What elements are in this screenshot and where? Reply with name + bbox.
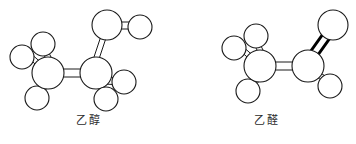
ethanol-structure-diagram — [0, 0, 178, 116]
atom-carbon-methyl — [32, 57, 64, 89]
atom-hydrogen-methyl-lower-left — [25, 86, 49, 110]
atom-hydrogen-methyl-top — [31, 32, 55, 56]
atom-carbon-methyl — [244, 50, 276, 82]
ethanol-atoms — [10, 10, 152, 111]
atom-carbon-methylene — [80, 57, 112, 89]
atom-hydrogen-methylene-right — [112, 70, 136, 94]
acetaldehyde-atoms — [222, 10, 348, 103]
atom-hydrogen-aldehyde — [318, 74, 342, 98]
atom-hydrogen-methyl-bottom — [236, 79, 260, 103]
atom-hydrogen-methyl-upper-left — [10, 45, 34, 69]
molecular-models-figure: 乙醇 — [0, 0, 356, 144]
atom-hydrogen-methylene-bottom — [94, 87, 118, 111]
caption-ethanol: 乙醇 — [0, 114, 178, 128]
atom-oxygen-carbonyl — [318, 10, 348, 40]
atom-hydrogen-methyl-upper-left — [222, 36, 246, 60]
acetaldehyde-structure-diagram — [178, 0, 356, 116]
atom-hydrogen-hydroxyl — [128, 15, 152, 39]
caption-acetaldehyde: 乙醛 — [178, 114, 356, 128]
molecule-panel-acetaldehyde: 乙醛 — [178, 0, 356, 144]
atom-carbon-carbonyl — [292, 50, 324, 82]
molecule-panel-ethanol: 乙醇 — [0, 0, 178, 144]
atom-oxygen-hydroxyl — [92, 10, 122, 40]
atom-hydrogen-methyl-top — [244, 24, 268, 48]
